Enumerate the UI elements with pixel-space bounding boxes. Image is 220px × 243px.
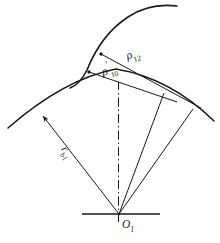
label-o-1-subscript: 1 bbox=[130, 225, 134, 234]
radius-line-rb1 bbox=[43, 116, 119, 214]
tangent-point-upper bbox=[99, 52, 102, 55]
technical-diagram: ρ12 ρ′10 rb1 O1 bbox=[0, 0, 220, 243]
center-point-o1 bbox=[118, 213, 120, 215]
diagram-canvas bbox=[0, 0, 220, 243]
tangent-point-lower bbox=[87, 70, 90, 73]
ray-right-outer bbox=[119, 109, 193, 214]
ray-right-inner bbox=[119, 93, 164, 214]
label-o-1: O1 bbox=[122, 215, 134, 234]
